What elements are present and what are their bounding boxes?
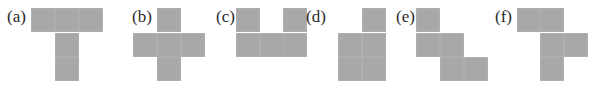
panel-label-d: (d) — [306, 8, 326, 25]
panel-label-e: (e) — [396, 8, 415, 25]
panel-label-a: (a) — [7, 8, 26, 25]
unit-square — [338, 33, 362, 57]
panel-label-c: (c) — [216, 8, 235, 25]
unit-square — [31, 8, 55, 32]
unit-square — [440, 33, 464, 57]
unit-square — [260, 33, 284, 57]
unit-square — [440, 57, 464, 81]
unit-square — [540, 57, 564, 81]
unit-square — [157, 33, 181, 57]
unit-square — [283, 8, 307, 32]
unit-square — [133, 33, 157, 57]
unit-square — [564, 33, 588, 57]
unit-square — [236, 8, 260, 32]
unit-square — [55, 33, 79, 57]
unit-square — [416, 33, 440, 57]
unit-square — [157, 57, 181, 81]
unit-square — [540, 33, 564, 57]
unit-square — [464, 57, 488, 81]
unit-square — [79, 8, 103, 32]
unit-square — [283, 33, 307, 57]
unit-square — [362, 57, 386, 81]
unit-square — [55, 8, 79, 32]
unit-square — [181, 33, 205, 57]
unit-square — [517, 8, 541, 32]
unit-square — [55, 57, 79, 81]
unit-square — [416, 8, 440, 32]
panel-label-f: (f) — [495, 8, 512, 25]
unit-square — [236, 33, 260, 57]
unit-square — [540, 8, 564, 32]
unit-square — [338, 57, 362, 81]
unit-square — [362, 33, 386, 57]
panel-label-b: (b) — [132, 8, 152, 25]
unit-square — [157, 8, 181, 32]
unit-square — [362, 8, 386, 32]
